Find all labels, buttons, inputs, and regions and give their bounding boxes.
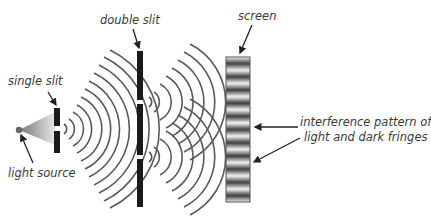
light-beam xyxy=(19,112,55,145)
arrow-fringe-2 xyxy=(254,138,300,162)
lower-slit-waves xyxy=(149,99,226,215)
single-slit-waves xyxy=(64,50,159,208)
arrow-single-slit xyxy=(48,92,56,105)
label-double-slit: double slit xyxy=(100,14,160,27)
label-single-slit: single slit xyxy=(8,75,63,88)
label-screen: screen xyxy=(238,10,276,23)
arrow-screen xyxy=(240,25,252,53)
screen xyxy=(226,57,250,202)
upper-slit-waves xyxy=(149,44,226,160)
light-source-icon xyxy=(16,127,22,133)
arrow-double-slit xyxy=(133,29,139,48)
annotation-arrows xyxy=(21,25,300,163)
label-light-source: light source xyxy=(8,167,76,180)
label-pattern-line1: interference pattern of xyxy=(300,116,431,129)
double-slit-barrier xyxy=(137,51,143,207)
arrow-light-source xyxy=(21,135,33,163)
label-pattern-line2: light and dark fringes xyxy=(304,131,427,144)
